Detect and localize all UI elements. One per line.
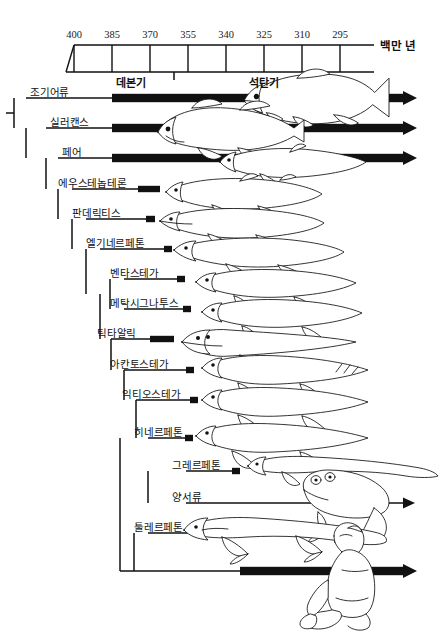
taxon-label-0: 조기어류	[30, 84, 69, 99]
lineage-arrow-13	[403, 498, 415, 509]
lineage-arrow-15	[403, 564, 417, 578]
taxon-label-4: 판데릭티스	[72, 205, 121, 220]
tick-label-340: 340	[218, 29, 234, 40]
lineage-bar-15	[240, 567, 403, 575]
taxon-label-13: 양서류	[172, 489, 201, 504]
range-bar-6	[177, 276, 185, 282]
figure-canvas: 400385370355340325310295 데본기석탄기 백만 년 조기어…	[0, 0, 445, 636]
lineage-arrow-2	[403, 151, 417, 165]
tick-label-385: 385	[104, 29, 120, 40]
range-bar-12	[232, 468, 240, 474]
taxon-label-3: 에우스테놉테론	[58, 175, 127, 190]
range-bar-8	[150, 336, 174, 342]
tick-label-295: 295	[332, 29, 348, 40]
period-label: 데본기	[116, 74, 146, 90]
range-bar-11	[185, 435, 193, 441]
taxon-label-11: 히네르페톤	[134, 424, 183, 439]
range-bar-3	[138, 186, 160, 192]
taxon-label-1: 실러캔스	[50, 114, 89, 129]
taxon-label-8: 틱타알릭	[97, 325, 136, 340]
taxon-label-7: 메탁시그나투스	[110, 295, 179, 310]
taxon-label-5: 엘기네르페톤	[86, 235, 145, 250]
taxon-label-6: 벤타스테가	[110, 265, 159, 280]
range-bar-4	[146, 216, 155, 222]
period-label: 석탄기	[249, 74, 279, 90]
organism-illustrations	[158, 69, 438, 630]
taxon-label-14: 툴레르페톤	[134, 519, 183, 534]
range-bar-9	[186, 367, 194, 373]
axis-ticks	[74, 45, 340, 72]
taxon-label-10: 익티오스테가	[122, 386, 181, 401]
tick-label-400: 400	[66, 29, 82, 40]
axis-left-slant	[66, 45, 74, 72]
lineage-arrow-1	[403, 121, 417, 135]
tick-label-310: 310	[294, 29, 310, 40]
taxon-label-9: 아칸토스테가	[110, 356, 169, 371]
range-bar-10	[190, 397, 198, 403]
range-bar-7	[183, 306, 191, 312]
lineage-arrow-0	[403, 91, 417, 105]
tick-label-370: 370	[142, 29, 158, 40]
axis-unit-label: 백만 년	[380, 37, 416, 53]
tick-label-325: 325	[256, 29, 272, 40]
taxon-label-2: 페어	[62, 144, 82, 159]
taxon-label-12: 그레르페톤	[172, 457, 221, 472]
tick-label-355: 355	[180, 29, 196, 40]
range-bar-5	[164, 246, 172, 252]
